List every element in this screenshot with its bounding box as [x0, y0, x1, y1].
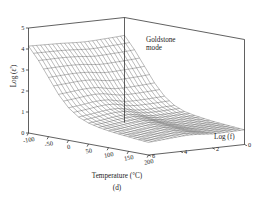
- mesh-line-const-logf: [45, 45, 165, 140]
- annotation-line-2: mode: [146, 44, 176, 52]
- y-tick-label-2: 2: [216, 145, 219, 152]
- figure-panel-d: Log (ε') Goldstone mode Temperature (°C)…: [0, 0, 254, 201]
- x-tick-label--50: -50: [43, 139, 53, 148]
- z-tick-label-4: 4: [21, 45, 24, 52]
- annotation-line-1: Goldstone: [146, 36, 176, 44]
- goldstone-mode-annotation: Goldstone mode: [146, 36, 176, 52]
- y-axis-line: [149, 145, 245, 156]
- z-tick-label-5: 5: [21, 24, 24, 31]
- y-tick-label-0: 0: [248, 141, 251, 148]
- y-axis-title: Log (f): [214, 133, 235, 141]
- y-tick-label-4: 4: [184, 148, 187, 155]
- panel-letter: (d): [62, 184, 172, 192]
- z-tick-label-1: 1: [21, 108, 24, 115]
- z-tick-label-2: 2: [21, 87, 24, 94]
- mesh-line-const-temp: [129, 124, 225, 136]
- x-tick-label-50: 50: [84, 146, 92, 154]
- x-tick-label-100: 100: [103, 150, 114, 159]
- z-tick-label-3: 3: [21, 66, 24, 73]
- surface-mesh: [29, 35, 245, 142]
- x-axis-title: Temperature (°C): [62, 172, 172, 180]
- z-axis-title: Log (ε'): [10, 54, 18, 98]
- y-tick: [245, 145, 247, 146]
- surface-plot-svg: [0, 0, 254, 201]
- y-tick-label-6: 6: [152, 152, 155, 159]
- axes-box-back: [29, 18, 245, 145]
- z-tick-label-0: 0: [21, 129, 24, 136]
- mesh-line-const-logf: [49, 44, 169, 138]
- mesh-line-const-logf: [41, 45, 161, 140]
- axes-box-front: [29, 133, 245, 155]
- top-back-left-edge: [29, 18, 125, 29]
- top-back-right-edge: [125, 18, 245, 40]
